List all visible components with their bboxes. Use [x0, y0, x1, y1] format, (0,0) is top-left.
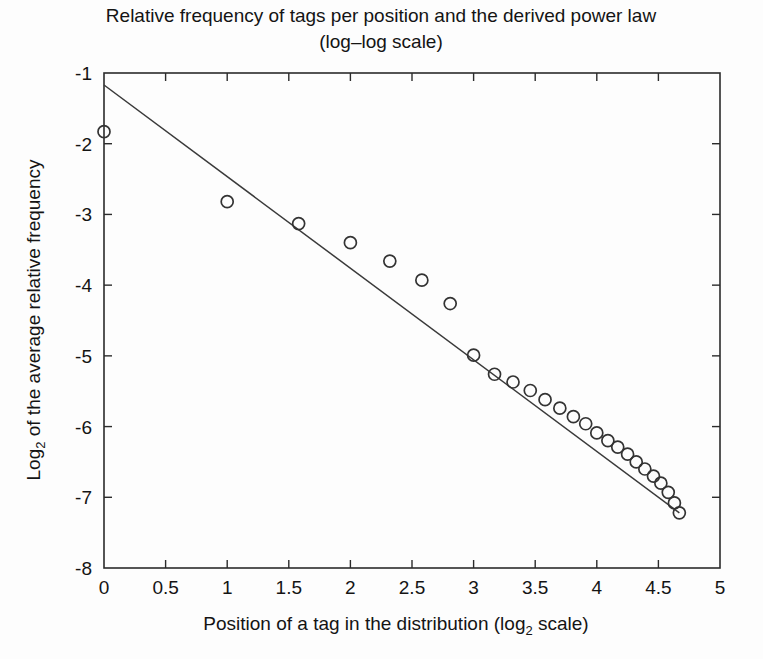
y-axis-title: Log2 of the average relative frequency	[23, 159, 48, 480]
x-axis-title-suffix: scale)	[533, 613, 589, 634]
y-tick-label: -7	[75, 487, 92, 508]
x-tick-label: 4.5	[645, 577, 671, 598]
data-point-markers	[98, 126, 685, 519]
x-tick-label: 2	[345, 577, 356, 598]
data-point-marker	[221, 196, 233, 208]
data-point-marker	[580, 418, 592, 430]
x-axis-ticks	[166, 73, 659, 568]
x-tick-label: 0.5	[152, 577, 178, 598]
y-tick-label: -3	[75, 204, 92, 225]
y-axis-title-suffix: of the average relative frequency	[23, 159, 44, 442]
x-tick-label: 5	[715, 577, 726, 598]
y-tick-label: -1	[75, 63, 92, 84]
fit-line-segment	[104, 85, 679, 513]
data-point-marker	[444, 298, 456, 310]
data-point-marker	[554, 402, 566, 414]
x-axis-tick-labels: 00.511.522.533.544.55	[99, 577, 726, 598]
data-point-marker	[344, 237, 356, 249]
x-tick-label: 2.5	[399, 577, 425, 598]
chart-title-line2: (log–log scale)	[319, 31, 443, 52]
x-tick-label: 4	[592, 577, 603, 598]
x-tick-label: 3.5	[522, 577, 548, 598]
y-tick-label: -6	[75, 417, 92, 438]
chart-title-line1: Relative frequency of tags per position …	[106, 5, 657, 26]
x-axis-title-prefix: Position of a tag in the distribution (l…	[203, 613, 525, 634]
x-tick-label: 3	[468, 577, 479, 598]
data-point-marker	[384, 255, 396, 267]
data-point-marker	[507, 376, 519, 388]
data-point-marker	[293, 218, 305, 230]
x-tick-label: 1	[222, 577, 233, 598]
chart-figure: Relative frequency of tags per position …	[0, 0, 763, 659]
power-law-fit-line	[104, 85, 679, 513]
y-axis-ticks	[104, 144, 720, 498]
power-law-scatter-chart: Relative frequency of tags per position …	[0, 0, 763, 659]
x-tick-label: 1.5	[276, 577, 302, 598]
y-tick-label: -5	[75, 346, 92, 367]
data-point-marker	[591, 427, 603, 439]
y-tick-label: -2	[75, 134, 92, 155]
x-tick-label: 0	[99, 577, 110, 598]
x-axis-title: Position of a tag in the distribution (l…	[203, 613, 588, 638]
y-tick-label: -4	[75, 275, 92, 296]
data-point-marker	[647, 470, 659, 482]
data-point-marker	[539, 394, 551, 406]
data-point-marker	[489, 368, 501, 380]
data-point-marker	[524, 385, 536, 397]
plot-frame	[104, 73, 720, 568]
y-tick-label: -8	[75, 558, 92, 579]
y-axis-tick-labels: -1-2-3-4-5-6-7-8	[75, 63, 92, 579]
x-axis-title-subscript: 2	[525, 623, 532, 638]
data-point-marker	[416, 274, 428, 286]
y-axis-title-subscript: 2	[33, 442, 48, 449]
data-point-marker	[567, 411, 579, 423]
y-axis-title-prefix: Log	[23, 449, 44, 481]
